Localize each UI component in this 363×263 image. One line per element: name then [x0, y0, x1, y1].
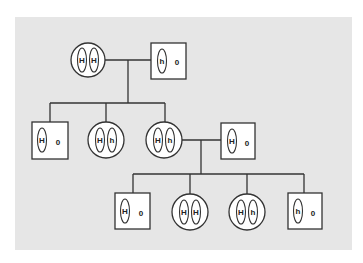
allele-label: H [155, 136, 161, 145]
y-chromosome-label: 0 [56, 138, 61, 147]
allele-label: H [193, 208, 199, 217]
allele-label: h [296, 207, 301, 216]
allele-label: H [122, 207, 128, 216]
allele-label: H [238, 208, 244, 217]
y-chromosome-label: 0 [245, 139, 250, 148]
individual-III2-female: H H [172, 194, 208, 230]
male-symbol [151, 43, 186, 79]
female-symbol [71, 43, 105, 77]
individual-II4-male: H 0 [221, 123, 255, 159]
male-symbol [221, 123, 255, 159]
individual-I1-female: H H [71, 43, 105, 77]
female-symbol [229, 194, 265, 230]
allele-label: h [168, 136, 173, 145]
allele-label: H [39, 136, 45, 145]
allele-label: H [181, 208, 187, 217]
allele-label: H [91, 56, 97, 65]
individual-II1-male: H 0 [32, 122, 68, 159]
individual-II2-female: H h [88, 122, 124, 158]
allele-label: H [97, 136, 103, 145]
allele-label: H [79, 56, 85, 65]
individual-III1-male: H 0 [115, 193, 150, 229]
y-chromosome-label: 0 [311, 209, 316, 218]
female-symbol [88, 122, 124, 158]
female-symbol [172, 194, 208, 230]
allele-label: H [229, 137, 235, 146]
y-chromosome-label: 0 [175, 58, 180, 67]
y-chromosome-label: 0 [139, 209, 144, 218]
individual-III3-female: H h [229, 194, 265, 230]
allele-label: h [160, 57, 165, 66]
pedigree-diagram: H H h 0 H 0 H h H h H 0 H 0 [0, 0, 363, 263]
allele-label: h [110, 136, 115, 145]
allele-label: h [251, 208, 256, 217]
female-symbol [146, 122, 182, 158]
individual-III4-male: h 0 [288, 193, 322, 229]
individual-II3-female: H h [146, 122, 182, 158]
individual-I2-male: h 0 [151, 43, 186, 79]
